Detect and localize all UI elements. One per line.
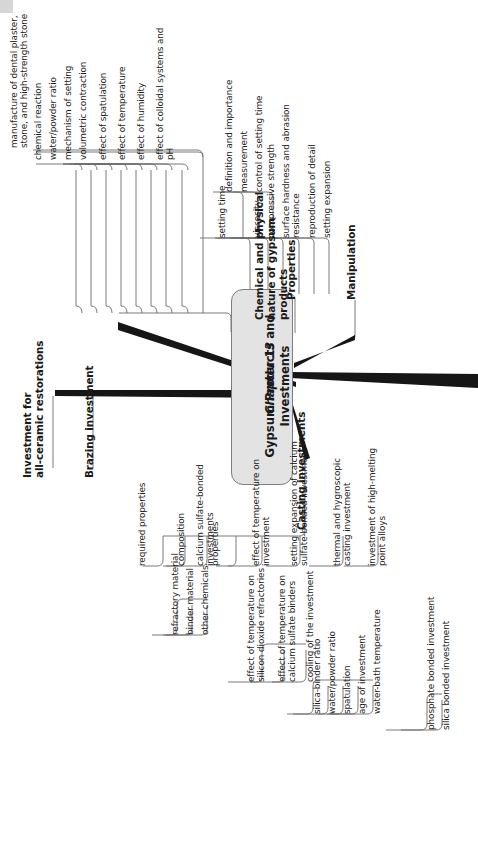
node-refractory-material[interactable]: refractory material	[170, 553, 180, 635]
node-reproduction-of-detail[interactable]: reproduction of detail	[307, 144, 317, 238]
node-manufacture-plaster[interactable]: manufacture of dental plaster, stone, an…	[9, 14, 29, 148]
node-effect-spatulation[interactable]: effect of spatulation	[98, 73, 108, 160]
node-surface-hardness[interactable]: surface hardness and abrasion resistance	[281, 104, 301, 238]
node-effect-temp-calcium-sulfate-binders[interactable]: effect of temperature on calcium sulfate…	[277, 575, 297, 682]
node-water-bath-temperature[interactable]: water-bath temperature	[372, 609, 382, 714]
mindmap-canvas: Chapter 13 Gypsum Products and Investmen…	[0, 0, 478, 866]
node-control-setting-time[interactable]: control of setting time	[254, 96, 264, 192]
node-setting-expansion[interactable]: setting expansion	[322, 161, 332, 238]
node-phosphate-bonded-investment[interactable]: phosphate bonded investment	[426, 597, 436, 730]
node-definition-importance[interactable]: definition and importance	[224, 80, 234, 192]
node-effect-temperature[interactable]: effect of temperature	[117, 67, 127, 160]
node-water-powder-ratio[interactable]: water/powder ratio	[48, 77, 58, 160]
node-thermal-hygroscopic-casting[interactable]: thermal and hygroscopic casting investme…	[332, 458, 352, 566]
node-age-of-investment[interactable]: age of investment	[357, 635, 367, 714]
node-silica-bonded-investment[interactable]: silica bonded investment	[441, 621, 451, 730]
branch-label-properties[interactable]: Properties	[286, 240, 298, 300]
node-spatulation[interactable]: spatulation	[342, 665, 352, 714]
branch-label-investment-all-ceramic[interactable]: Investment for all-ceramic restorations	[22, 341, 46, 478]
node-effect-colloidal-ph[interactable]: effect of colloidal systems and pH	[155, 28, 175, 160]
node-setting-expansion-calcium-sulfate[interactable]: setting expansion of calcium sulfate-bon…	[289, 441, 309, 566]
node-viscosity[interactable]: viscosity	[252, 200, 262, 238]
node-effect-humidity[interactable]: effect of humidity	[136, 83, 146, 160]
node-properties[interactable]: properties	[210, 522, 220, 566]
branch-label-brazing[interactable]: Brazing investment	[84, 366, 96, 479]
node-effect-temperature-investment[interactable]: effect of temperature on investment	[251, 459, 271, 566]
central-topic-line2: Gypsum Products and	[263, 294, 278, 478]
node-water-powder-ratio-inv[interactable]: water/powder ratio	[327, 631, 337, 714]
node-other-chemicals[interactable]: other chemicals	[200, 566, 210, 635]
node-investment-high-melting-alloys[interactable]: investment of high-melting point alloys	[367, 448, 387, 566]
node-silica-binder-ratio[interactable]: silica-binder ratio	[312, 639, 322, 714]
node-volumetric-contraction[interactable]: volumetric contraction	[78, 62, 88, 160]
node-setting-time[interactable]: setting time	[217, 186, 227, 238]
node-effect-temp-silicon-dioxide[interactable]: effect of temperature on silicon dioxide…	[246, 568, 266, 682]
node-measurement[interactable]: measurement	[239, 131, 249, 192]
branch-label-manipulation[interactable]: Manipulation	[346, 224, 358, 300]
node-required-properties[interactable]: required properties	[137, 483, 147, 566]
node-compressive-strength[interactable]: compressive strength	[266, 144, 276, 238]
node-mechanism-of-setting[interactable]: mechanism of setting	[63, 66, 73, 160]
node-chemical-reaction[interactable]: chemical reaction	[33, 83, 43, 160]
node-binder-material[interactable]: binder material	[185, 568, 195, 635]
